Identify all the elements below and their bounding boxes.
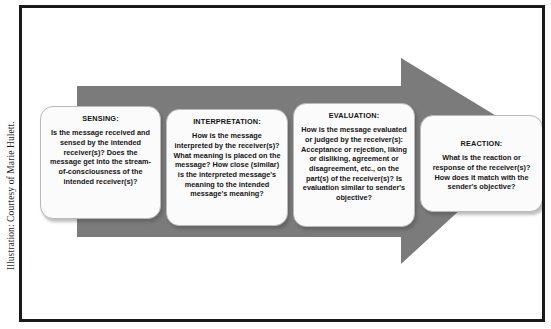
credit-caption-text: Illustration: Courtesy of Marie Hulett. [6,40,16,270]
illustration-canvas: SENSING: Is the message received and sen… [22,8,542,319]
process-box-sensing[interactable]: SENSING: Is the message received and sen… [40,106,161,219]
process-box-reaction[interactable]: REACTION: What is the reaction or respon… [420,115,542,212]
process-box-body: How is the message interpreted by the re… [173,131,281,199]
process-box-title: SENSING: [47,114,154,123]
process-box-title: INTERPRETATION: [173,117,281,126]
process-box-evaluation[interactable]: EVALUATION: How is the message evaluated… [293,103,415,227]
process-box-title: REACTION: [427,139,536,148]
process-box-body: What is the reaction or response of the … [427,153,536,192]
credit-caption: Illustration: Courtesy of Marie Hulett. [0,0,19,329]
process-box-body: How is the message evaluated or judged b… [300,125,408,203]
process-box-title: EVALUATION: [300,111,408,120]
process-box-interpretation[interactable]: INTERPRETATION: How is the message inter… [166,109,288,226]
process-box-body: Is the message received and sensed by th… [47,128,154,186]
illustration-frame: SENSING: Is the message received and sen… [19,5,545,322]
illustration-stage: Illustration: Courtesy of Marie Hulett. … [0,0,551,329]
